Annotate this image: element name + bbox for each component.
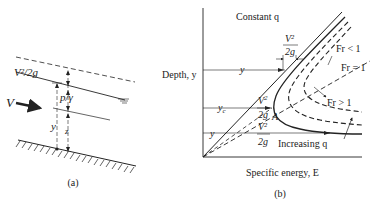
x-axis-label: Specific energy, E [246, 167, 319, 178]
caption-a: (a) [67, 177, 78, 189]
pressure-head-label: p/γ [59, 91, 74, 103]
froude-subcritical-label: Fr < 1 [336, 43, 361, 54]
increasing-q-label: Increasing q [278, 138, 327, 149]
froude-supercritical-label: Fr > 1 [327, 97, 352, 108]
figure-a: V²/2g p/γ V y z (a) [6, 57, 136, 189]
caption-b: (b) [274, 188, 286, 200]
line-e-equals-y [203, 12, 342, 157]
y-axis-label: Depth, y [162, 69, 196, 80]
point-a-label: A [271, 111, 279, 122]
velocity-head-top-den: 2g [285, 46, 295, 57]
channel-bed [18, 140, 136, 166]
velocity-head-low-num: V² [258, 121, 268, 132]
critical-velocity-head-num: V2 [258, 94, 268, 106]
velocity-head-low-den: 2g [258, 136, 268, 147]
velocity-head-label: V²/2g [14, 66, 39, 78]
velocity-head-top-num: V² [285, 33, 295, 44]
elevation-label: z [64, 126, 69, 136]
depth-lower-label: y [209, 128, 215, 139]
critical-depth-label: yc [217, 102, 226, 115]
figure-canvas: V²/2g p/γ V y z (a) [0, 0, 376, 204]
increasing-q-arrow-icon [344, 118, 352, 139]
velocity-arrow-icon [16, 103, 40, 108]
depth-label: y [50, 120, 56, 132]
critical-velocity-head-den: 2g [258, 109, 268, 120]
bed-hatching [16, 141, 134, 173]
streamline [53, 108, 110, 120]
froude-critical-label: Fr = 1 [341, 62, 366, 73]
figure-b: Constant q Depth, y Specific energy, E (… [162, 8, 370, 200]
depth-upper-label: y [239, 64, 245, 75]
velocity-label: V [6, 95, 16, 110]
chart-title: Constant q [236, 11, 279, 22]
